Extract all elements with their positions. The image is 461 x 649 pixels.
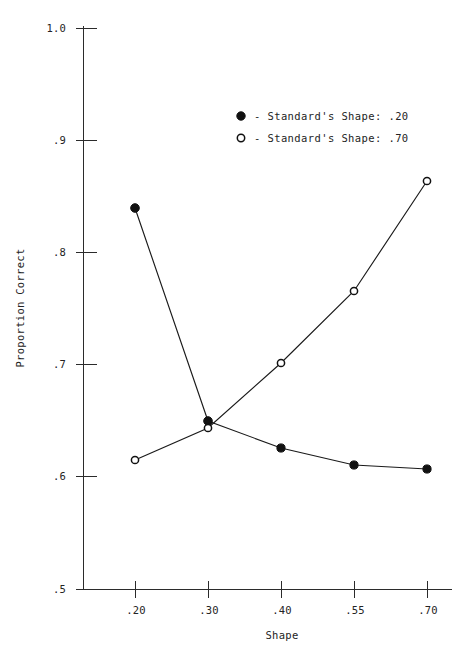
series-standard-shape-070 [131,177,430,463]
chart-figure: 1.0 .9 .8 .7 .6 .5 .20 .30 .40 .55 .70 S… [0,0,461,649]
legend-entry-filled: - Standard's Shape: .20 [237,110,409,122]
legend-open-circle-icon [237,134,244,141]
legend-label: - Standard's Shape: .20 [254,110,409,122]
legend-entry-open: - Standard's Shape: .70 [237,132,408,144]
y-axis-title: Proportion Correct [14,248,26,367]
x-axis-title: Shape [265,629,298,641]
legend-label: - Standard's Shape: .70 [254,132,409,144]
y-axis-ticks [76,29,97,590]
x-tick-label: .30 [199,604,219,616]
data-point [423,465,431,473]
data-point [423,177,430,184]
x-axis-tick-labels: .20 .30 .40 .55 .70 [126,604,438,616]
data-point [131,204,140,213]
data-point [350,461,358,469]
y-tick-label: .6 [53,470,66,482]
y-tick-label: .9 [53,134,66,146]
chart-legend: - Standard's Shape: .20 - Standard's Sha… [237,110,409,144]
x-tick-label: .70 [418,604,438,616]
legend-filled-circle-icon [237,112,245,120]
data-point [277,444,285,452]
x-tick-label: .20 [126,604,146,616]
chart-plot-area: 1.0 .9 .8 .7 .6 .5 .20 .30 .40 .55 .70 S… [0,0,461,649]
y-tick-label: .5 [53,583,66,595]
y-tick-label: 1.0 [46,22,66,34]
x-tick-label: .40 [272,604,292,616]
y-axis-tick-labels: 1.0 .9 .8 .7 .6 .5 [46,22,66,595]
data-point [350,287,357,294]
data-point [131,456,138,463]
series-standard-shape-020 [131,204,431,473]
series-line-open [135,181,427,460]
data-point [277,359,284,366]
y-tick-label: .7 [53,358,66,370]
y-tick-label: .8 [53,246,66,258]
data-point [204,424,211,431]
x-tick-label: .55 [345,604,365,616]
